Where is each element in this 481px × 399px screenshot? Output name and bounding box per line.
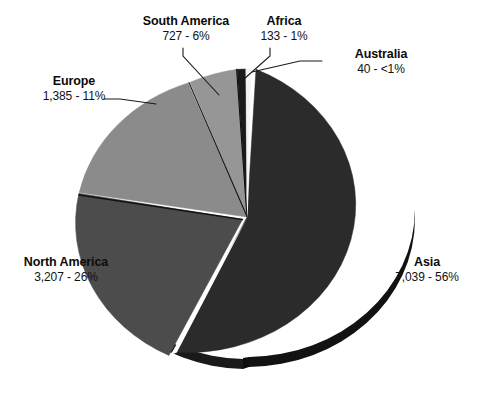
slice-label-south-america-value: 727 - 6% (122, 29, 250, 43)
slice-label-north-america-value: 3,207 - 26% (4, 270, 128, 284)
pie-face-layer (76, 69, 356, 355)
slice-label-north-america-name: North America (4, 255, 128, 270)
slice-label-australia-name: Australia (322, 47, 440, 62)
slice-label-europe-name: Europe (18, 74, 130, 89)
slice-label-north-america: North America 3,207 - 26% (4, 255, 128, 284)
pie-side-gap (243, 357, 249, 369)
slice-label-africa: Africa 133 - 1% (232, 14, 336, 43)
slice-label-south-america-name: South America (122, 14, 250, 29)
pie-chart: South America 727 - 6% Africa 133 - 1% A… (0, 0, 481, 399)
slice-label-australia-value: 40 - <1% (322, 62, 440, 76)
slice-label-asia-name: Asia (376, 255, 478, 270)
slice-label-australia: Australia 40 - <1% (322, 47, 440, 76)
slice-label-asia: Asia 7,039 - 56% (376, 255, 478, 284)
slice-label-asia-value: 7,039 - 56% (376, 270, 478, 284)
slice-label-africa-name: Africa (232, 14, 336, 29)
slice-label-africa-value: 133 - 1% (232, 29, 336, 43)
slice-label-south-america: South America 727 - 6% (122, 14, 250, 43)
slice-label-europe-value: 1,385 - 11% (18, 89, 130, 103)
slice-label-europe: Europe 1,385 - 11% (18, 74, 130, 103)
